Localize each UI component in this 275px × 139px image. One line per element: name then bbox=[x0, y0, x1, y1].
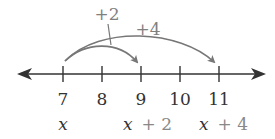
tick-label-9: 9 bbox=[136, 89, 147, 109]
jump-label-plus-2: +2 bbox=[94, 4, 119, 24]
jump-arc-plus-2 bbox=[65, 46, 137, 62]
tick-label-8: 8 bbox=[97, 89, 108, 109]
label-x-plus-2-op: + 2 bbox=[142, 114, 172, 134]
jump-label-plus-2-leader bbox=[108, 24, 111, 45]
label-x-plus-2-var: x bbox=[123, 114, 133, 134]
tick-label-7: 7 bbox=[58, 89, 69, 109]
tick-label-10: 10 bbox=[169, 89, 191, 109]
tick-label-11: 11 bbox=[208, 89, 230, 109]
number-line-diagram: 7 8 9 10 11 x x + 2 x + 4 +2 +4 bbox=[0, 0, 275, 139]
label-x: x bbox=[58, 114, 68, 134]
jump-arc-plus-4 bbox=[65, 36, 214, 62]
label-x-plus-4: x + 4 bbox=[199, 114, 248, 134]
label-x-plus-2: x + 2 bbox=[123, 114, 172, 134]
label-x-plus-4-op: + 4 bbox=[218, 114, 248, 134]
jump-label-plus-4: +4 bbox=[135, 19, 160, 39]
label-x-plus-4-var: x bbox=[199, 114, 209, 134]
